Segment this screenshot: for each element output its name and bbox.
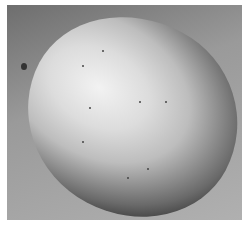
apple-speck: [165, 101, 167, 103]
apple-speck: [139, 101, 141, 103]
apple-speck: [82, 141, 84, 143]
apple-speck: [147, 168, 149, 170]
photograph: [7, 5, 242, 220]
apple-speck: [89, 107, 91, 109]
apple-stem: [21, 63, 27, 70]
apple-speck: [127, 177, 129, 179]
apple-speck: [82, 65, 84, 67]
apple-speck: [102, 50, 104, 52]
apple: [7, 5, 242, 220]
